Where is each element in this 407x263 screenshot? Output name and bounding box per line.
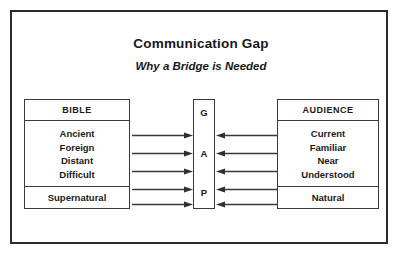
audience-attribute-3: Understood: [301, 168, 354, 182]
bible-box: BIBLE Ancient Foreign Distant Difficult …: [24, 99, 130, 209]
page-subtitle: Why a Bridge is Needed: [12, 60, 390, 72]
left-arrow-3-icon: [132, 186, 193, 193]
diagram-canvas: Communication Gap Why a Bridge is Needed…: [0, 0, 407, 263]
left-arrow-0-icon: [132, 132, 193, 139]
page-title: Communication Gap: [12, 36, 390, 51]
right-arrow-group: [215, 99, 277, 209]
diagram-frame: Communication Gap Why a Bridge is Needed…: [10, 10, 388, 244]
left-arrow-4-icon: [132, 201, 193, 208]
bible-attribute-3: Difficult: [59, 168, 94, 182]
audience-box-header: AUDIENCE: [278, 100, 378, 121]
left-arrow-2-icon: [132, 168, 193, 175]
right-arrow-1-icon: [215, 150, 277, 157]
left-arrow-group: [132, 99, 193, 209]
gap-letter-g: G: [194, 107, 214, 118]
right-arrow-3-icon: [215, 186, 277, 193]
left-arrow-1-icon: [132, 150, 193, 157]
bible-attribute-list: Ancient Foreign Distant Difficult: [25, 121, 129, 187]
audience-box: AUDIENCE Current Familiar Near Understoo…: [277, 99, 379, 209]
audience-attribute-2: Near: [317, 154, 338, 168]
bible-box-footer: Supernatural: [25, 187, 129, 208]
audience-attribute-0: Current: [311, 127, 345, 141]
right-arrow-0-icon: [215, 132, 277, 139]
bible-attribute-1: Foreign: [60, 141, 95, 155]
audience-attribute-1: Familiar: [310, 141, 346, 155]
audience-attribute-list: Current Familiar Near Understood: [278, 121, 378, 187]
bible-attribute-0: Ancient: [60, 127, 95, 141]
right-arrow-2-icon: [215, 168, 277, 175]
gap-letter-a: A: [194, 148, 214, 159]
audience-box-footer: Natural: [278, 187, 378, 208]
bible-attribute-2: Distant: [61, 154, 93, 168]
right-arrow-4-icon: [215, 201, 277, 208]
gap-column: G A P: [193, 99, 215, 209]
gap-letter-p: P: [194, 187, 214, 198]
bible-box-header: BIBLE: [25, 100, 129, 121]
